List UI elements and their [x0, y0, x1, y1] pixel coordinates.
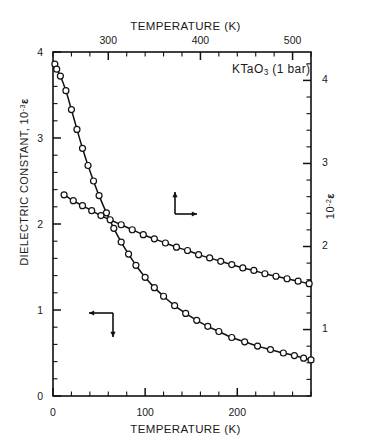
data-point [306, 281, 312, 287]
data-point [74, 126, 80, 132]
data-point [107, 217, 113, 223]
data-point [207, 255, 213, 261]
tick-label-top: 400 [192, 34, 210, 46]
left-axis-title: DIELECTRIC CONSTANT, 10-3ε [18, 82, 30, 282]
data-point [267, 347, 273, 353]
sample-label: KTaO3 (1 bar) [232, 62, 310, 77]
sample-formula-pre: KTaO [232, 62, 264, 76]
right-axis-symbol: ε [324, 193, 336, 199]
tick-label-right: 1 [322, 322, 328, 334]
tick-label-top: 300 [100, 34, 118, 46]
data-point [301, 355, 307, 361]
left-axis-symbol: ε [18, 98, 30, 104]
chart-svg: 0100200300400500012341234 [0, 0, 371, 443]
data-point [118, 222, 124, 228]
data-point [173, 244, 179, 250]
data-point [61, 192, 67, 198]
data-point [79, 203, 85, 209]
left-axis-title-text: DIELECTRIC CONSTANT, 10 [18, 111, 30, 265]
data-point [251, 267, 257, 273]
data-point [216, 329, 222, 335]
tick-label-left: 3 [37, 132, 43, 144]
upper-curve-arrow-up-head [172, 192, 177, 197]
lower-curve-arrow-left-head [89, 310, 94, 315]
data-point [63, 88, 69, 94]
series-line-1 [64, 195, 309, 284]
right-axis-title-text: 10 [324, 206, 336, 219]
data-point [280, 350, 286, 356]
data-point [68, 107, 74, 113]
data-point [151, 285, 157, 291]
tick-label-bottom: 100 [136, 406, 154, 418]
data-point [308, 357, 314, 363]
data-point [79, 145, 85, 151]
data-point [273, 273, 279, 279]
bottom-axis-title: TEMPERATURE (K) [0, 423, 371, 435]
top-axis-title: TEMPERATURE (K) [0, 20, 371, 32]
data-point [57, 73, 63, 79]
data-point [91, 178, 97, 184]
tick-label-left: 1 [37, 304, 43, 316]
upper-curve-arrow-right-head [192, 211, 197, 216]
right-axis-title: 10-2ε [324, 161, 336, 251]
data-point [70, 198, 76, 204]
data-point [142, 274, 148, 280]
data-point [98, 213, 104, 219]
tick-label-left: 2 [37, 218, 43, 230]
data-point [85, 163, 91, 169]
data-point [295, 278, 301, 284]
data-point [133, 262, 139, 268]
data-point [140, 232, 146, 238]
left-axis-exponent: -3 [18, 104, 27, 111]
data-point [284, 276, 290, 282]
data-point [229, 335, 235, 341]
data-point [205, 323, 211, 329]
data-point [183, 310, 189, 316]
data-point [162, 240, 168, 246]
data-point [218, 258, 224, 264]
data-point [185, 247, 191, 253]
data-point [172, 303, 178, 309]
data-point [151, 236, 157, 242]
tick-label-left: 0 [37, 390, 43, 402]
right-axis-exponent: -2 [324, 199, 333, 206]
tick-label-right: 4 [322, 73, 328, 85]
data-point [126, 251, 132, 257]
sample-condition: (1 bar) [269, 62, 311, 76]
data-point [291, 353, 297, 359]
tick-label-bottom: 0 [50, 406, 56, 418]
data-point [129, 227, 135, 233]
tick-label-top: 500 [284, 34, 302, 46]
data-point [194, 317, 200, 323]
data-point [89, 208, 95, 214]
lower-curve-arrow-down-head [110, 332, 115, 337]
data-point [242, 339, 248, 345]
data-point [96, 193, 102, 199]
data-point [118, 239, 124, 245]
chart-figure: 0100200300400500012341234 [0, 0, 371, 443]
data-point [54, 66, 60, 72]
data-point [229, 262, 235, 268]
data-point [255, 343, 261, 349]
data-point [161, 293, 167, 299]
plot-frame [53, 52, 311, 396]
tick-label-left: 4 [37, 46, 43, 58]
tick-label-bottom: 200 [229, 406, 247, 418]
data-point [262, 271, 268, 277]
data-point [240, 265, 246, 271]
data-point [196, 252, 202, 258]
data-point [111, 225, 117, 231]
